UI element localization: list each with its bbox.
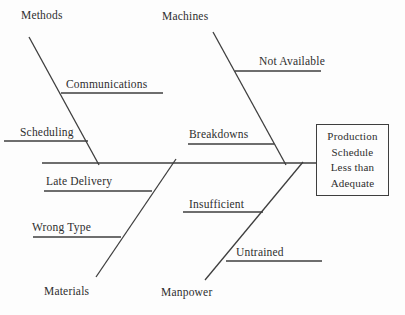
fishbone-diagram: Methods Machines Materials Manpower Comm…	[0, 0, 405, 315]
methods-bone-line	[29, 37, 99, 165]
cause-label-wrong-type: Wrong Type	[32, 221, 91, 234]
effect-text-line-3: Less than	[331, 160, 375, 176]
category-label-manpower: Manpower	[161, 286, 212, 299]
effect-text-line-4: Adequate	[331, 176, 375, 192]
cause-label-insufficient: Insufficient	[189, 198, 244, 211]
machines-bone-line	[213, 32, 286, 165]
effect-text-line-1: Production	[327, 129, 377, 145]
cause-label-untrained: Untrained	[236, 246, 284, 259]
category-label-machines: Machines	[162, 10, 208, 23]
category-label-methods: Methods	[21, 9, 63, 22]
effect-text-line-2: Schedule	[332, 145, 374, 161]
cause-label-breakdowns: Breakdowns	[189, 128, 249, 141]
effect-box: Production Schedule Less than Adequate	[316, 124, 389, 196]
cause-label-communications: Communications	[66, 78, 147, 91]
cause-label-scheduling: Scheduling	[20, 126, 74, 139]
category-label-materials: Materials	[44, 285, 89, 298]
cause-label-not-available: Not Available	[259, 55, 325, 68]
manpower-bone-line	[205, 162, 303, 280]
cause-label-late-delivery: Late Delivery	[46, 175, 112, 188]
